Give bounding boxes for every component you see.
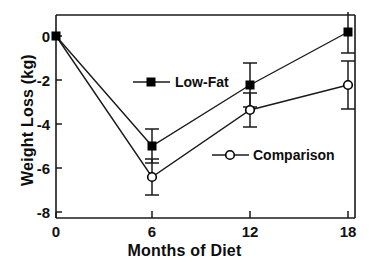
y-axis-title: Weight Loss (kg) [20, 40, 36, 200]
x-axis-title: Months of Diet [0, 243, 369, 259]
datapoint-comparison-12 [246, 106, 255, 115]
datapoint-lowfat-6 [148, 142, 156, 150]
legend-comparison-marker-icon [226, 151, 235, 160]
y-axis-ticks [56, 36, 62, 212]
datapoint-origin [52, 32, 60, 40]
datapoint-lowfat-12 [246, 81, 254, 89]
legend-key-lowfat [133, 78, 170, 86]
plot-frame [56, 15, 355, 218]
x-tick-label-18: 18 [333, 224, 363, 239]
weight-loss-line-chart: 0 -2 -4 -6 -8 0 6 12 18 Months of Diet W… [0, 0, 369, 269]
x-tick-label-6: 6 [137, 224, 167, 239]
legend-key-comparison [212, 151, 249, 160]
legend-label-lowfat: Low-Fat [175, 75, 229, 89]
x-axis-ticks [56, 211, 348, 218]
datapoint-comparison-18 [344, 81, 353, 90]
datapoint-lowfat-18 [344, 28, 352, 36]
legend-lowfat-marker-icon [147, 78, 155, 86]
datapoint-comparison-6 [148, 173, 157, 182]
x-tick-label-12: 12 [235, 224, 265, 239]
y-tick-label-minus8: -8 [24, 205, 50, 220]
x-tick-label-0: 0 [41, 224, 71, 239]
legend-label-comparison: Comparison [253, 148, 335, 162]
